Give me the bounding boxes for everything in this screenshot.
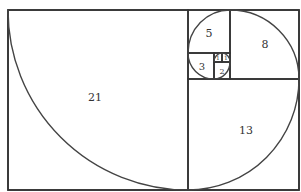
outer-rectangle bbox=[8, 10, 299, 190]
label-1a: 1 bbox=[216, 54, 220, 61]
label-3: 3 bbox=[199, 61, 205, 72]
fibonacci-spiral-diagram: 21 13 8 5 3 2 1 1 bbox=[0, 0, 301, 192]
label-5: 5 bbox=[206, 27, 213, 40]
label-8: 8 bbox=[262, 38, 269, 51]
label-13: 13 bbox=[239, 124, 253, 137]
label-2: 2 bbox=[219, 67, 224, 76]
label-1b: 1 bbox=[224, 54, 228, 61]
spiral-arc bbox=[8, 10, 299, 190]
label-21: 21 bbox=[88, 91, 102, 104]
